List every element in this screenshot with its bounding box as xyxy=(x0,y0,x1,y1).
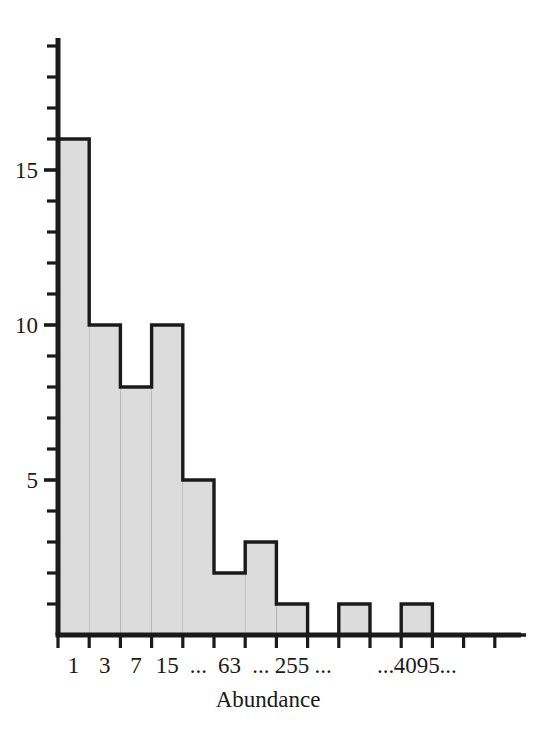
x-axis-tick-label: 15 xyxy=(156,653,179,678)
y-axis-labels-group: 51015 xyxy=(15,158,38,493)
x-axis-tick-label: 1 xyxy=(68,653,80,678)
x-axis-tick-label: ... xyxy=(315,653,332,678)
y-axis-tick-label: 15 xyxy=(15,158,38,183)
histogram-bar xyxy=(89,325,120,635)
histogram-bar xyxy=(183,480,214,635)
x-axis-tick-label: 7 xyxy=(130,653,142,678)
histogram-bar xyxy=(152,325,183,635)
x-axis-labels-group: 13715...63...255......4095... xyxy=(68,653,457,678)
histogram-figure: 51015 13715...63...255......4095... Abun… xyxy=(0,0,537,734)
histogram-bar xyxy=(214,573,245,635)
histogram-bar xyxy=(245,542,276,635)
x-axis-tick-label: 3 xyxy=(99,653,111,678)
histogram-bar xyxy=(120,387,151,635)
histogram-bar xyxy=(339,604,370,635)
bars-group xyxy=(58,139,526,635)
histogram-bar xyxy=(276,604,307,635)
histogram-bar xyxy=(401,604,432,635)
y-axis-tick-label: 10 xyxy=(15,313,38,338)
x-axis-tick-label: 4095 xyxy=(394,653,440,678)
x-axis-tick-label: ... xyxy=(377,653,394,678)
x-axis-tick-label: ... xyxy=(190,653,207,678)
histogram-bar xyxy=(58,139,89,635)
x-axis-tick-label: ... xyxy=(439,653,456,678)
x-axis-tick-label: 255 xyxy=(275,653,310,678)
y-axis-tick-label: 5 xyxy=(27,468,39,493)
abundance-histogram-plot: 51015 13715...63...255......4095... Abun… xyxy=(0,0,537,734)
x-axis-tick-label: 63 xyxy=(218,653,241,678)
x-axis-title: Abundance xyxy=(216,687,321,712)
x-axis-tick-label: ... xyxy=(252,653,269,678)
